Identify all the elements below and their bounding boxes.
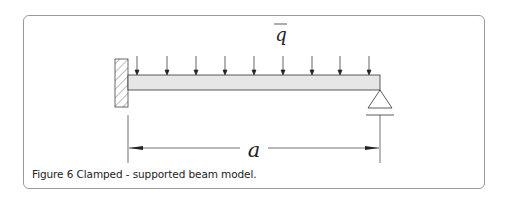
- load-arrow-icon: [252, 56, 256, 75]
- load-arrow-icon: [165, 56, 169, 75]
- distributed-load-arrows: [135, 56, 371, 75]
- length-label: a: [248, 138, 261, 162]
- load-label: q: [274, 24, 287, 45]
- load-arrow-icon: [194, 56, 198, 75]
- load-arrow-icon: [310, 56, 314, 75]
- load-arrow-icon: [338, 56, 342, 75]
- svg-text:q: q: [275, 24, 287, 45]
- caption-text: Clamped - supported beam model.: [77, 168, 257, 180]
- pinned-support-icon: [366, 90, 394, 115]
- load-arrow-icon: [135, 56, 139, 75]
- load-arrow-icon: [281, 56, 285, 75]
- load-arrow-icon: [367, 56, 371, 75]
- load-arrow-icon: [223, 56, 227, 75]
- caption-label: Figure 6: [32, 168, 73, 180]
- clamped-wall-icon: [115, 59, 128, 107]
- beam: [128, 75, 380, 90]
- figure-caption: Figure 6 Clamped - supported beam model.: [32, 168, 257, 180]
